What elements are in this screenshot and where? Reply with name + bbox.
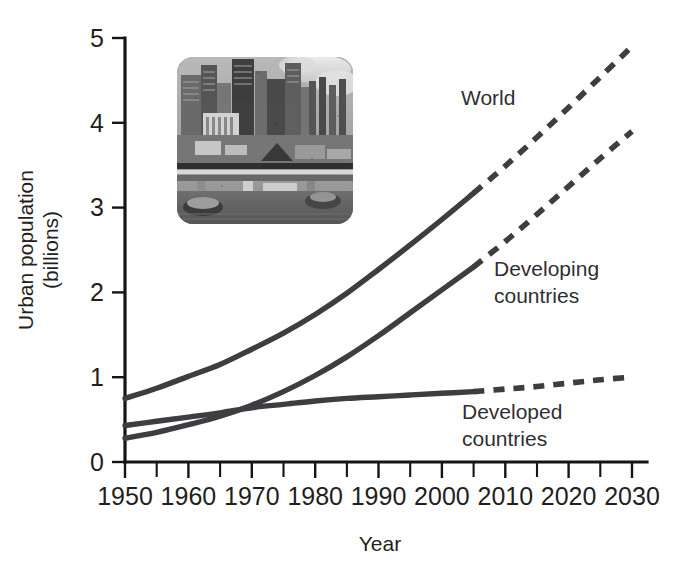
x-tick-label-2000: 2000 [414, 482, 470, 510]
y-axis-title-line1: Urban population [14, 170, 37, 330]
series-label-developing-line2: countries [494, 284, 579, 307]
x-tick-labels: 1950 1960 1970 1980 1990 2000 2010 2020 … [97, 482, 660, 510]
series-annotations: World Developing countries Developed cou… [461, 86, 599, 450]
series-line-projection [474, 46, 632, 193]
x-tick-label-1970: 1970 [224, 482, 280, 510]
y-tick-labels: 0 1 2 3 4 5 [90, 24, 104, 476]
series-label-developed-line2: countries [462, 427, 547, 450]
photo-artwork [177, 57, 353, 224]
x-tick-label-1990: 1990 [351, 482, 407, 510]
x-tick-label-2010: 2010 [477, 482, 533, 510]
y-tick-label-0: 0 [90, 448, 104, 476]
x-tick-label-2030: 2030 [604, 482, 660, 510]
x-tick-label-2020: 2020 [541, 482, 597, 510]
y-tick-label-3: 3 [90, 193, 104, 221]
city-industrial-photo [177, 57, 353, 224]
series-label-developing-line1: Developing [494, 257, 599, 280]
y-tick-label-2: 2 [90, 278, 104, 306]
x-tick-label-1980: 1980 [287, 482, 343, 510]
series-label-developed-line1: Developed [462, 400, 562, 423]
y-tick-label-5: 5 [90, 24, 104, 52]
series-line-historical [125, 392, 474, 426]
y-tick-label-4: 4 [90, 109, 104, 137]
series-label-world: World [461, 86, 515, 109]
series-line-historical [125, 267, 474, 438]
y-axis-title-line2: (billions) [39, 211, 62, 289]
series-line-projection [474, 377, 632, 391]
x-tick-label-1950: 1950 [97, 482, 153, 510]
x-axis-title: Year [359, 532, 401, 555]
x-tick-label-1960: 1960 [161, 482, 217, 510]
series-line-projection [474, 131, 632, 267]
y-tick-label-1: 1 [90, 363, 104, 391]
urban-population-figure: 0 1 2 3 4 5 [0, 0, 687, 572]
x-tick-marks [125, 462, 632, 478]
